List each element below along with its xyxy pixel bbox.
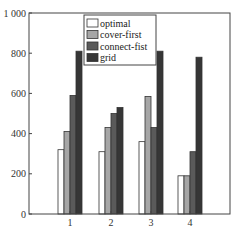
bar-grid-2 [117, 107, 123, 214]
x-tick-label: 1 [68, 217, 73, 228]
bar-cover-first-3 [145, 96, 151, 214]
legend-swatch-optimal [87, 19, 98, 27]
bar-grid-4 [196, 57, 202, 214]
x-tick-label: 2 [109, 217, 114, 228]
bar-optimal-1 [58, 150, 64, 214]
y-tick-label: 1 000 [4, 8, 27, 19]
bars-group [58, 51, 202, 214]
bar-optimal-2 [99, 152, 105, 214]
legend-swatch-grid [87, 54, 98, 62]
y-axis: 02004006008001 000 [4, 8, 33, 220]
bar-chart: 02004006008001 000 1234 optimalcover-fir… [0, 0, 232, 228]
y-tick-label: 600 [11, 88, 26, 99]
bar-cover-first-2 [105, 128, 111, 214]
bar-grid-3 [157, 51, 163, 214]
bar-optimal-4 [178, 176, 184, 214]
bar-connect-fist-1 [70, 95, 76, 214]
bar-grid-1 [76, 51, 82, 214]
legend-swatch-connect-fist [87, 42, 98, 50]
bar-cover-first-1 [64, 132, 70, 214]
x-tick-label: 3 [149, 217, 154, 228]
bar-connect-fist-4 [190, 152, 196, 214]
legend-swatch-cover-first [87, 31, 98, 39]
bar-connect-fist-3 [151, 128, 157, 214]
bar-optimal-3 [139, 142, 145, 214]
legend-label-cover-first: cover-first [100, 29, 142, 40]
y-tick-label: 800 [11, 48, 26, 59]
legend-label-grid: grid [100, 52, 116, 63]
legend-label-connect-fist: connect-fist [100, 41, 147, 52]
legend-label-optimal: optimal [100, 18, 131, 29]
bar-connect-fist-2 [111, 114, 117, 215]
y-tick-label: 400 [11, 128, 26, 139]
bar-cover-first-4 [184, 176, 190, 214]
y-tick-label: 200 [11, 168, 26, 179]
legend: optimalcover-firstconnect-fistgrid [84, 15, 156, 65]
y-tick-label: 0 [21, 209, 26, 220]
x-tick-label: 4 [188, 217, 193, 228]
